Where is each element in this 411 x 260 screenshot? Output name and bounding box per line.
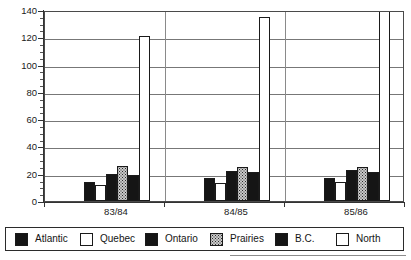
legend-swatch-icon bbox=[15, 233, 28, 246]
legend-item-label: B.C. bbox=[295, 234, 314, 244]
x-tick-label: 84/85 bbox=[206, 207, 266, 217]
gridline bbox=[45, 94, 403, 95]
legend-item-label: Ontario bbox=[165, 234, 198, 244]
bar-ontario-85-86 bbox=[346, 170, 357, 201]
y-tick-major bbox=[38, 120, 43, 121]
y-tick-minor bbox=[40, 182, 43, 183]
y-tick-minor bbox=[40, 107, 43, 108]
group-divider bbox=[285, 12, 286, 201]
legend-swatch-icon bbox=[210, 233, 223, 246]
bar-quebec-85-86 bbox=[335, 182, 346, 201]
legend-item-label: Atlantic bbox=[35, 234, 68, 244]
plot-area bbox=[44, 11, 404, 202]
legend-item-ontario[interactable]: Ontario bbox=[145, 233, 198, 246]
y-tick-major bbox=[38, 38, 43, 39]
legend-bottom-rule bbox=[230, 255, 406, 256]
y-tick-minor bbox=[40, 134, 43, 135]
y-tick-major bbox=[38, 175, 43, 176]
y-tick-label: 60 bbox=[1, 115, 37, 125]
y-tick-label: 100 bbox=[1, 61, 37, 71]
group-divider bbox=[165, 12, 166, 201]
x-tick-label: 85/86 bbox=[326, 207, 386, 217]
y-tick-minor bbox=[40, 113, 43, 114]
y-tick-minor bbox=[40, 52, 43, 53]
y-tick-minor bbox=[40, 86, 43, 87]
y-tick-major bbox=[38, 147, 43, 148]
legend-swatch-icon bbox=[336, 233, 349, 246]
y-tick-major bbox=[38, 11, 43, 12]
y-tick-minor bbox=[40, 25, 43, 26]
bar-quebec-84-85 bbox=[215, 183, 226, 201]
y-tick-minor bbox=[40, 18, 43, 19]
x-tick bbox=[404, 203, 405, 207]
bar-prairies-84-85 bbox=[237, 167, 248, 201]
y-tick-major bbox=[38, 66, 43, 67]
bar-ontario-84-85 bbox=[226, 171, 237, 201]
y-tick-minor bbox=[40, 161, 43, 162]
gridline bbox=[45, 148, 403, 149]
y-tick-minor bbox=[40, 45, 43, 46]
y-tick-minor bbox=[40, 195, 43, 196]
y-tick-label: 40 bbox=[1, 142, 37, 152]
y-tick-minor bbox=[40, 168, 43, 169]
bar-ontario-83-84 bbox=[106, 174, 117, 201]
y-tick-minor bbox=[40, 72, 43, 73]
y-tick-minor bbox=[40, 127, 43, 128]
y-tick-minor bbox=[40, 188, 43, 189]
bar-atlantic-85-86 bbox=[324, 178, 335, 201]
y-axis-labels: 020406080100120140 bbox=[0, 0, 37, 260]
bar-chart-figure: 020406080100120140 83/8484/8585/86 Atlan… bbox=[0, 0, 411, 260]
legend-swatch-icon bbox=[80, 233, 93, 246]
bar-b-c--85-86 bbox=[368, 172, 379, 201]
legend-item-label: Quebec bbox=[100, 234, 135, 244]
y-tick-label: 0 bbox=[1, 197, 37, 207]
bar-atlantic-83-84 bbox=[84, 182, 95, 201]
x-tick-label: 83/84 bbox=[86, 207, 146, 217]
gridline bbox=[45, 39, 403, 40]
y-tick-major bbox=[38, 202, 43, 203]
legend-item-north[interactable]: North bbox=[336, 233, 380, 246]
legend-swatch-icon bbox=[145, 233, 158, 246]
legend-swatch-icon bbox=[275, 233, 288, 246]
gridline bbox=[45, 121, 403, 122]
legend-item-quebec[interactable]: Quebec bbox=[80, 233, 135, 246]
bar-north-83-84 bbox=[139, 36, 150, 201]
x-tick bbox=[284, 203, 285, 207]
y-tick-minor bbox=[40, 154, 43, 155]
y-tick-minor bbox=[40, 31, 43, 32]
x-axis-line bbox=[43, 202, 405, 203]
legend-item-prairies[interactable]: Prairies bbox=[210, 233, 264, 246]
y-tick-minor bbox=[40, 100, 43, 101]
y-tick-label: 20 bbox=[1, 170, 37, 180]
legend-item-label: North bbox=[356, 234, 380, 244]
legend-item-label: Prairies bbox=[230, 234, 264, 244]
bar-north-84-85 bbox=[259, 17, 270, 201]
bar-b-c--83-84 bbox=[128, 175, 139, 201]
x-tick bbox=[164, 203, 165, 207]
bar-prairies-85-86 bbox=[357, 167, 368, 201]
legend-item-atlantic[interactable]: Atlantic bbox=[15, 233, 68, 246]
bar-atlantic-84-85 bbox=[204, 178, 215, 201]
gridline bbox=[45, 67, 403, 68]
y-tick-label: 140 bbox=[1, 6, 37, 16]
y-tick-label: 120 bbox=[1, 33, 37, 43]
y-tick-minor bbox=[40, 141, 43, 142]
chart-legend: AtlanticQuebecOntarioPrairiesB.C.North bbox=[5, 227, 404, 251]
bar-b-c--84-85 bbox=[248, 172, 259, 201]
y-tick-label: 80 bbox=[1, 88, 37, 98]
bar-quebec-83-84 bbox=[95, 185, 106, 201]
y-tick-minor bbox=[40, 79, 43, 80]
legend-item-b-c-[interactable]: B.C. bbox=[275, 233, 314, 246]
bar-prairies-83-84 bbox=[117, 166, 128, 201]
y-tick-minor bbox=[40, 59, 43, 60]
y-tick-major bbox=[38, 93, 43, 94]
x-tick bbox=[44, 203, 45, 207]
bar-north-85-86 bbox=[379, 11, 390, 201]
